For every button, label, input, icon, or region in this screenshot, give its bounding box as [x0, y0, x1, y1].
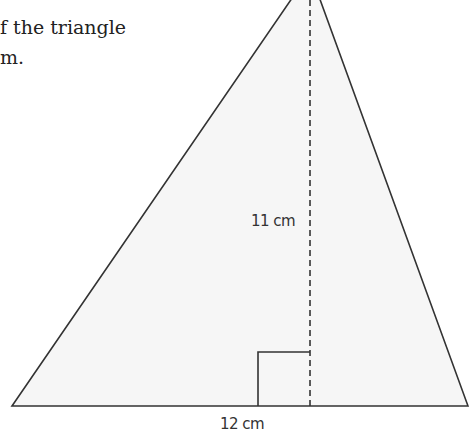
base-label: 12 cm	[220, 415, 264, 433]
question-line-2: m.	[0, 42, 126, 72]
question-text: f the triangle m.	[0, 12, 126, 72]
question-line-1: f the triangle	[0, 12, 126, 42]
height-label: 11 cm	[251, 212, 295, 230]
